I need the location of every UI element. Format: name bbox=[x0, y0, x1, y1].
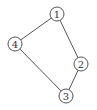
node-label: 1 bbox=[54, 9, 60, 20]
node-label: 2 bbox=[78, 59, 84, 70]
node-label: 3 bbox=[63, 91, 69, 102]
graph-diagram: 1234 bbox=[0, 0, 97, 110]
node-label: 4 bbox=[12, 39, 18, 50]
node-3: 3 bbox=[59, 89, 73, 103]
edge-1-4 bbox=[15, 14, 57, 44]
edge-1-2 bbox=[57, 14, 81, 64]
edges-group bbox=[15, 14, 81, 96]
node-2: 2 bbox=[74, 57, 88, 71]
edge-4-3 bbox=[15, 44, 66, 96]
nodes-group: 1234 bbox=[8, 7, 88, 103]
node-4: 4 bbox=[8, 37, 22, 51]
node-1: 1 bbox=[50, 7, 64, 21]
